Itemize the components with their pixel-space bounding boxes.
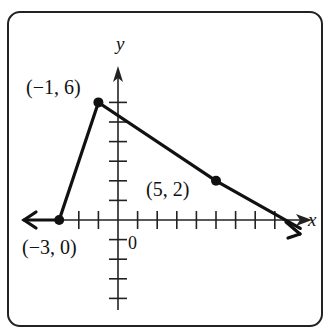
x-axis-label: x	[307, 209, 317, 230]
frame	[8, 12, 322, 326]
y-axis-label: y	[114, 33, 125, 54]
point-dot	[93, 97, 103, 107]
point-label: (−3, 0)	[22, 236, 77, 259]
point-dot	[54, 215, 64, 225]
point-label: (−1, 6)	[26, 76, 81, 99]
point-dot	[211, 176, 221, 186]
origin-label: 0	[128, 233, 137, 253]
point-label: (5, 2)	[146, 178, 189, 201]
graph-figure: y x 0 (−1, 6) (5, 2) (−3, 0)	[0, 0, 327, 332]
